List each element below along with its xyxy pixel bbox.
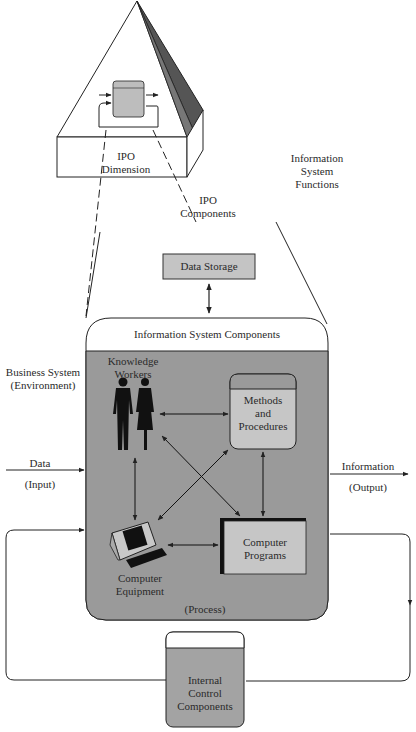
is-components-title: Information System Components <box>86 328 328 341</box>
data-storage-label: Data Storage <box>163 260 255 273</box>
data-input-label: Data <box>20 457 60 470</box>
knowledge-workers-label: KnowledgeWorkers <box>103 355 163 381</box>
computer-equipment-label: ComputerEquipment <box>105 572 175 598</box>
internal-control-label: InternalControlComponents <box>166 674 244 713</box>
ipo-components-label: IPOComponents <box>173 194 243 220</box>
methods-procedures-label: MethodsandProcedures <box>230 394 296 433</box>
ipo-dimension-label: IPODimension <box>96 150 156 176</box>
information-system-functions-label: InformationSystemFunctions <box>282 152 352 191</box>
output-sub-label: (Output) <box>333 481 403 494</box>
computer-programs-label: ComputerPrograms <box>224 536 306 562</box>
business-system-label: Business System(Environment) <box>2 366 84 392</box>
information-output-label: Information <box>333 460 403 473</box>
input-sub-label: (Input) <box>20 478 60 491</box>
process-label: (Process) <box>170 603 240 616</box>
